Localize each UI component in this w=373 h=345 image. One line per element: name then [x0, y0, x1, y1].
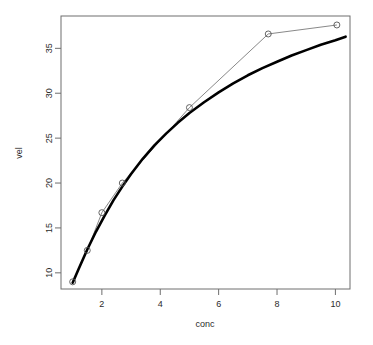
scatter-plot: 246810 101520253035 conc vel	[0, 0, 373, 345]
plot-background	[0, 0, 373, 345]
x-tick-label: 4	[158, 299, 163, 309]
y-tick-label: 30	[44, 88, 54, 98]
x-tick-label: 10	[330, 299, 340, 309]
y-tick-label: 25	[44, 133, 54, 143]
y-tick-label: 15	[44, 223, 54, 233]
x-tick-label: 6	[216, 299, 221, 309]
y-axis-title: vel	[14, 147, 24, 159]
x-tick-label: 8	[275, 299, 280, 309]
chart-screenshot: 246810 101520253035 conc vel	[0, 0, 373, 345]
y-tick-label: 20	[44, 178, 54, 188]
x-tick-label: 2	[99, 299, 104, 309]
x-axis-title: conc	[195, 319, 215, 329]
y-tick-label: 10	[44, 268, 54, 278]
y-tick-label: 35	[44, 43, 54, 53]
